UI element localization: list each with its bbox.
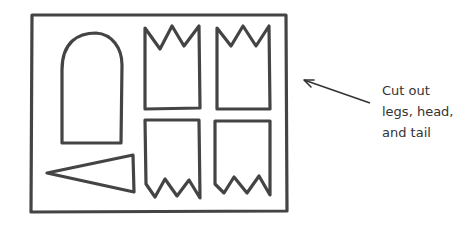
tail-piece bbox=[47, 155, 134, 192]
head-piece bbox=[62, 33, 122, 143]
leg-bottom-left bbox=[145, 120, 200, 198]
leg-top-right bbox=[217, 26, 270, 109]
arrow bbox=[304, 80, 370, 103]
caption-line-3: and tail bbox=[382, 122, 454, 143]
leg-bottom-right bbox=[215, 121, 270, 195]
leg-top-left bbox=[145, 26, 200, 109]
caption-line-2: legs, head, bbox=[382, 101, 454, 122]
cut-out-instruction: Cut out legs, head, and tail bbox=[382, 80, 454, 143]
caption-line-1: Cut out bbox=[382, 80, 454, 101]
